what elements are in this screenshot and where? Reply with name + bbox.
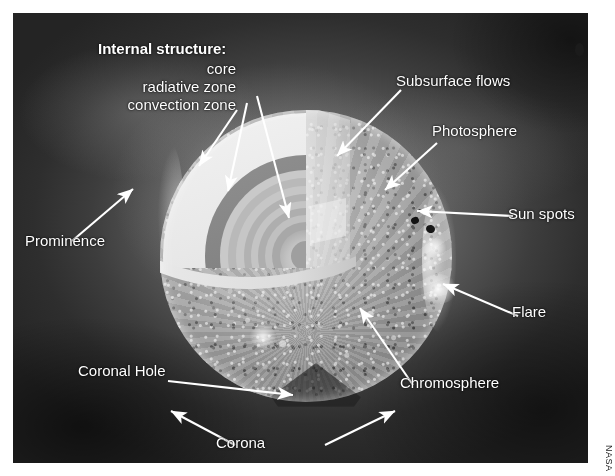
label-corona: Corona [216, 434, 265, 452]
image-credit: NASA [604, 445, 614, 472]
label-photosphere: Photosphere [432, 122, 517, 140]
sun-limb-ring [160, 110, 452, 402]
label-sun-spots: Sun spots [508, 205, 575, 223]
figure-page: Internal structure: core radiative zone … [0, 0, 615, 476]
label-subsurface-flows: Subsurface flows [396, 72, 510, 90]
label-radiative-zone: radiative zone [84, 78, 236, 96]
sun-sphere [160, 110, 452, 402]
label-chromosphere: Chromosphere [400, 374, 499, 392]
corner-mark-icon [575, 43, 584, 56]
label-core: core [118, 60, 236, 78]
internal-structure-heading: Internal structure: [98, 40, 226, 58]
label-prominence: Prominence [25, 232, 105, 250]
label-coronal-hole: Coronal Hole [78, 362, 166, 380]
label-convection-zone: convection zone [72, 96, 236, 114]
label-flare: Flare [512, 303, 546, 321]
